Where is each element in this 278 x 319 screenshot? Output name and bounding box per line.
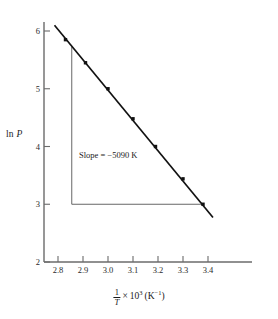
power-of-ten: 103 <box>130 292 143 302</box>
best-fit-line-segment <box>55 25 214 217</box>
power-base: 10 <box>130 291 140 301</box>
data-point-4 <box>154 145 157 148</box>
x-tick-label-3.3: 3.3 <box>178 266 189 275</box>
data-point-0 <box>64 38 67 41</box>
y-tick-marks <box>44 31 50 262</box>
fit-line <box>55 25 214 217</box>
x-tick-label-3.1: 3.1 <box>128 266 139 275</box>
plot-area <box>0 0 278 319</box>
fraction-denominator: T <box>114 298 121 307</box>
chart-figure: 23456 2.82.93.03.13.23.33.4 ln P 1 T × 1… <box>0 0 278 319</box>
y-axis-title-prefix: ln <box>6 129 16 139</box>
multiplication-sign: × <box>122 292 127 302</box>
fraction-numerator: 1 <box>114 288 120 297</box>
x-tick-label-2.8: 2.8 <box>53 266 64 275</box>
data-point-6 <box>201 203 204 206</box>
slope-annotation: Slope = −5090 K <box>79 151 137 160</box>
y-tick-label-6: 6 <box>36 27 40 36</box>
units-group: (K−1) <box>144 292 164 302</box>
units-open: (K <box>144 291 154 301</box>
axes-group <box>44 22 252 262</box>
y-tick-label-4: 4 <box>36 142 40 151</box>
x-axis-title: 1 T × 103 (K−1) <box>113 288 164 306</box>
power-exponent: 3 <box>139 289 142 296</box>
units-close: ) <box>161 291 164 301</box>
y-tick-label-3: 3 <box>36 200 40 209</box>
x-tick-label-3.0: 3.0 <box>103 266 114 275</box>
y-tick-label-5: 5 <box>36 85 40 94</box>
y-axis-title-variable: P <box>16 129 22 139</box>
data-point-2 <box>106 87 109 90</box>
x-tick-label-3.4: 3.4 <box>203 266 214 275</box>
y-axis-title: ln P <box>6 130 22 140</box>
data-point-3 <box>131 117 134 120</box>
x-tick-label-2.9: 2.9 <box>78 266 89 275</box>
data-point-5 <box>181 177 184 180</box>
x-tick-marks <box>58 256 208 262</box>
reciprocal-temperature-fraction: 1 T <box>113 288 120 306</box>
x-tick-label-3.2: 3.2 <box>153 266 164 275</box>
y-tick-label-2: 2 <box>36 258 40 267</box>
data-point-1 <box>84 61 87 64</box>
